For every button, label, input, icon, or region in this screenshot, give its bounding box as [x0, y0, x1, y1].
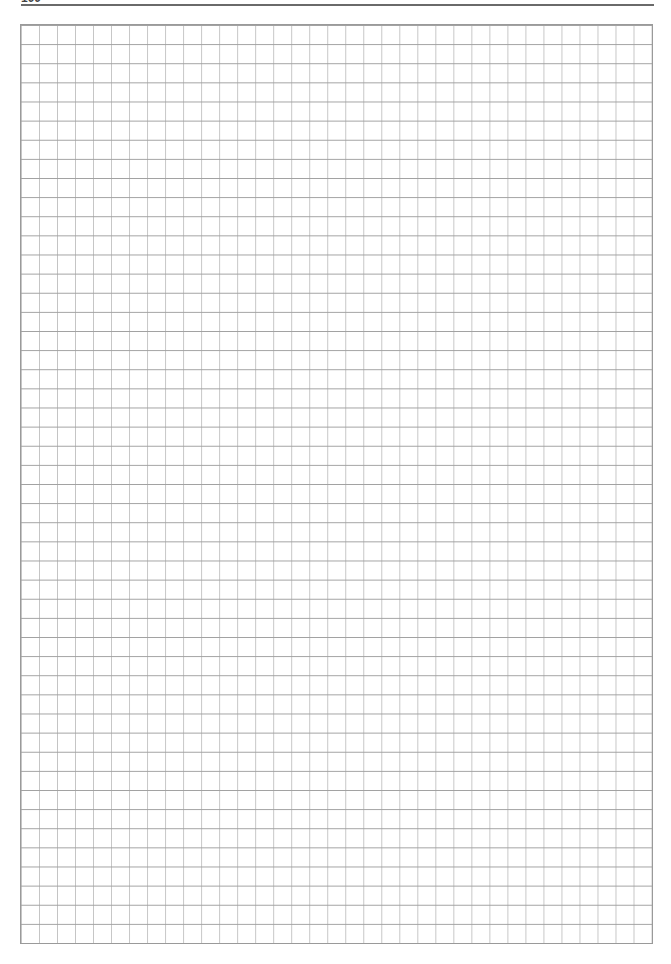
graph-paper-grid: [20, 24, 653, 944]
header-rule: [21, 4, 654, 6]
